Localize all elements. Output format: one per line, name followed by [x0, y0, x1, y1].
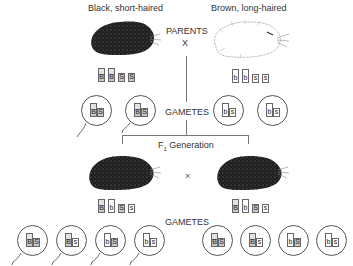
- chromosome: b: [108, 199, 115, 213]
- gamete-bs: bs: [213, 95, 244, 126]
- parents-cross-symbol: X: [182, 38, 188, 48]
- f1-gametes-label: GAMETES: [165, 217, 209, 227]
- gamete-bS: bS: [278, 225, 309, 256]
- chromosome: S: [128, 73, 135, 82]
- parent-connector-line: [186, 56, 187, 102]
- f1-left-chromosomes: B b S s: [98, 199, 135, 213]
- parent-left-label: Black, short-haired: [88, 3, 163, 13]
- chromosome: b: [232, 69, 239, 83]
- black-guinea-pig-icon: [214, 152, 290, 192]
- f1-branch-left: [122, 135, 123, 144]
- gamete-tail-icon: [89, 252, 103, 266]
- black-guinea-pig-icon: [86, 17, 162, 59]
- chromosome: B: [108, 68, 115, 82]
- parent-gametes-label: GAMETES: [165, 107, 209, 117]
- chromosome: s: [262, 204, 269, 213]
- gamete-bs: bs: [316, 225, 347, 256]
- chromosome: b: [242, 199, 249, 213]
- f1-cross-symbol: ×: [185, 171, 190, 181]
- gamete-tail-icon: [10, 252, 24, 266]
- black-guinea-pig-icon: [86, 152, 162, 192]
- gamete-bs: bs: [257, 95, 288, 126]
- gamete-tail-icon: [50, 252, 64, 266]
- parent-right-chromosomes: b b s s: [232, 69, 269, 83]
- chromosome: B: [232, 199, 239, 213]
- gamete-BS: BS: [202, 225, 233, 256]
- chromosome: S: [118, 73, 125, 82]
- gamete-tail-icon: [128, 252, 142, 266]
- chromosome: s: [262, 74, 269, 83]
- gamete-tail-icon: [76, 122, 90, 138]
- parent-right-label: Brown, long-haired: [211, 3, 287, 13]
- chromosome: B: [98, 199, 105, 213]
- chromosome: s: [252, 74, 259, 83]
- brown-long-haired-guinea-pig-icon: [211, 18, 291, 60]
- chromosome: B: [98, 68, 105, 82]
- chromosome: s: [128, 204, 135, 213]
- chromosome: b: [242, 69, 249, 83]
- gamete-Bs: Bs: [240, 225, 271, 256]
- chromosome: S: [118, 204, 125, 213]
- f1-branch-right: [248, 135, 249, 144]
- gamete-tail-icon: [120, 122, 134, 134]
- parent-left-chromosomes: B B S S: [98, 68, 135, 82]
- f1-branch-line: [122, 135, 249, 136]
- f1-generation-label: F1 Generation: [158, 140, 214, 152]
- f1-right-chromosomes: B b S s: [232, 199, 269, 213]
- f1-connector-line: [186, 120, 187, 135]
- chromosome: S: [252, 204, 259, 213]
- parents-heading: PARENTS: [166, 26, 208, 36]
